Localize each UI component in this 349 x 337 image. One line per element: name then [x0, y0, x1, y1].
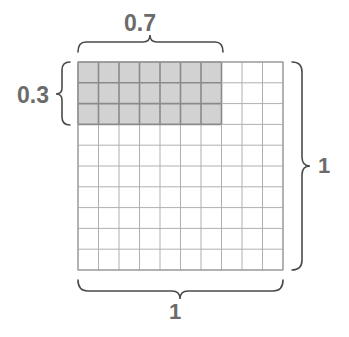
brace-bottom-icon [78, 280, 283, 299]
dimension-label-left: 0.3 [17, 84, 49, 107]
area-model-figure: 0.7 0.3 1 1 [0, 0, 349, 337]
dimension-label-top: 0.7 [124, 12, 156, 35]
brace-top-icon [78, 35, 223, 52]
brace-right-icon [292, 62, 310, 270]
dimension-label-right: 1 [318, 155, 330, 177]
dimension-label-bottom: 1 [169, 301, 181, 323]
brace-left-icon [56, 62, 70, 125]
dimension-braces [0, 0, 349, 337]
